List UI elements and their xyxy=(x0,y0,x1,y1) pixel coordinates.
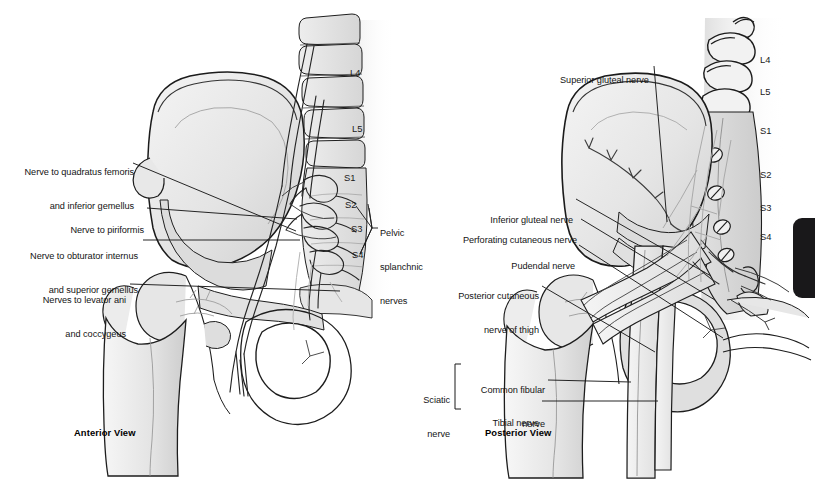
page-edge-tab xyxy=(793,218,815,298)
vertebra-label-s4: S4 xyxy=(760,232,771,242)
inferior-pubic-ramus xyxy=(723,334,809,348)
label-nerves-to-levator-ani: Nerves to levator ani and coccygeus xyxy=(10,272,126,363)
vertebra-label-s2: S2 xyxy=(345,200,356,210)
view-label-anterior: Anterior View xyxy=(74,427,136,438)
label-line-2: nerve of thigh xyxy=(423,325,539,336)
panel-posterior-view: Superior gluteal nerve Inferior gluteal … xyxy=(405,0,815,480)
label-line-1: Posterior cutaneous xyxy=(423,291,539,302)
label-superior-gluteal-nerve: Superior gluteal nerve xyxy=(560,52,700,109)
label-line-1: Sciatic xyxy=(405,395,450,406)
label-line-1: Nerve to quadratus femoris xyxy=(10,167,134,178)
vertebra-label-l5: L5 xyxy=(352,124,362,134)
vertebra-label-s1: S1 xyxy=(344,173,355,183)
vertebra-label-s4: S4 xyxy=(352,250,363,260)
label-line-1: Nerves to levator ani xyxy=(10,295,126,306)
label-tibial-nerve: Tibial nerve xyxy=(463,395,539,452)
lesser-trochanter xyxy=(204,321,231,348)
label-posterior-cutaneous-nerve-of-thigh: Posterior cutaneous nerve of thigh xyxy=(423,268,539,359)
vertebra-label-s3: S3 xyxy=(351,224,362,234)
vertebra-label-l4: L4 xyxy=(760,55,770,65)
vertebra-label-l5: L5 xyxy=(760,87,770,97)
label-sciatic-nerve: Sciatic nerve xyxy=(405,372,450,463)
obturator-foramen xyxy=(256,323,330,398)
vertebra-label-s3: S3 xyxy=(760,203,771,213)
sciatic-nerve-bracket xyxy=(455,364,461,409)
label-line-1: Nerve to obturator internus xyxy=(10,251,138,262)
lumbar-spine-anterior xyxy=(299,14,365,168)
label-line-1: Superior gluteal nerve xyxy=(560,75,700,86)
label-line-2: nerve xyxy=(405,429,450,440)
label-line-2: and coccygeus xyxy=(10,329,126,340)
view-label-posterior: Posterior View xyxy=(485,427,551,438)
anatomy-figure: Nerve to quadratus femoris and inferior … xyxy=(0,0,815,480)
panel-anterior-view: Nerve to quadratus femoris and inferior … xyxy=(0,0,410,480)
vertebra-label-s1: S1 xyxy=(760,126,771,136)
vertebra-label-s2: S2 xyxy=(760,170,771,180)
vertebra-label-l4: L4 xyxy=(350,68,360,78)
